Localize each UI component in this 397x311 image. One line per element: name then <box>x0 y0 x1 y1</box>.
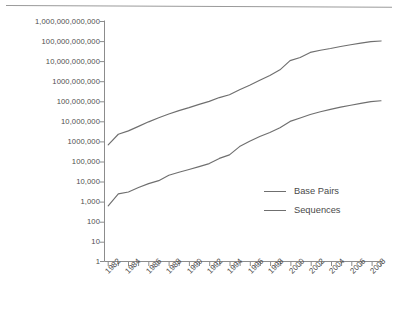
x-tick-label: 1986 <box>145 257 163 275</box>
x-tick-label: 1984 <box>124 257 142 275</box>
x-tick-label: 2006 <box>349 257 367 275</box>
x-tick-label: 1994 <box>226 257 244 275</box>
x-tick-label: 1990 <box>186 257 204 275</box>
x-tick-label: 2002 <box>308 257 326 275</box>
legend-item-sequences[interactable]: Sequences <box>264 201 388 220</box>
x-tick-label: 1992 <box>206 257 224 275</box>
line-swatch-icon <box>264 191 286 192</box>
x-tick-label: 1982 <box>104 257 122 275</box>
legend-label: Base Pairs <box>294 187 339 196</box>
legend-item-base-pairs[interactable]: Base Pairs <box>264 182 388 201</box>
x-tick-label: 2000 <box>288 257 306 275</box>
line-swatch-icon <box>264 210 286 211</box>
x-tick-label: 1988 <box>165 257 183 275</box>
growth-chart: 1,000,000,000,000 100,000,000,000 10,000… <box>0 0 397 311</box>
legend-label: Sequences <box>294 206 341 215</box>
chart-legend: Base Pairs Sequences <box>264 182 388 220</box>
x-tick-label: 1998 <box>267 257 285 275</box>
x-tick-label: 1996 <box>247 257 265 275</box>
x-axis-labels: 1982 1984 1986 1988 1990 1992 1994 1996 … <box>0 0 397 311</box>
x-tick-label: 2008 <box>369 257 387 275</box>
x-tick-label: 2004 <box>328 257 346 275</box>
